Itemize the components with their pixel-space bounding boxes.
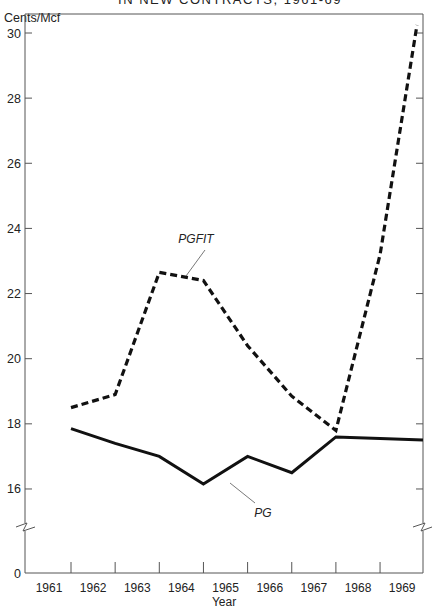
chart-title: IN NEW CONTRACTS, 1961-69 xyxy=(118,0,342,7)
data-lines xyxy=(71,25,423,484)
x-tick-label: 1966 xyxy=(256,581,283,595)
x-tick-label: 1967 xyxy=(301,581,328,595)
pgfit-line xyxy=(71,25,417,431)
x-axis-title: Year xyxy=(212,595,236,609)
y-axis-ticks: 30282624222018160 xyxy=(7,27,423,581)
y-tick-label: 30 xyxy=(7,27,21,41)
x-tick-label: 1964 xyxy=(168,581,195,595)
y-tick-label: 16 xyxy=(7,482,21,496)
x-tick-label: 1969 xyxy=(389,581,416,595)
y-axis-unit-label: Cents/Mcf xyxy=(4,11,61,25)
x-tick-label: 1965 xyxy=(212,581,239,595)
x-tick-label: 1968 xyxy=(345,581,372,595)
y-tick-label: 18 xyxy=(7,417,21,431)
y-tick-label: 28 xyxy=(7,92,21,106)
pgfit-leader-line xyxy=(186,250,205,276)
right-axis-break-icon xyxy=(413,523,432,531)
y-tick-label: 24 xyxy=(7,222,21,236)
left-axis-break-icon xyxy=(16,523,35,531)
pg-leader-line xyxy=(230,483,255,503)
pgfit-series-label: PGFIT xyxy=(178,232,215,246)
frame-sides xyxy=(25,14,423,573)
x-tick-label: 1961 xyxy=(36,581,63,595)
y-tick-label: 20 xyxy=(7,352,21,366)
x-tick-label: 1963 xyxy=(124,581,151,595)
chart: IN NEW CONTRACTS, 1961-69 Cents/Mcf 3028… xyxy=(0,0,435,609)
pg-series-label: PG xyxy=(254,506,271,520)
y-tick-label: 22 xyxy=(7,287,21,301)
x-axis-ticks: 196119621963196419651966196719681969 xyxy=(36,562,416,595)
y-tick-label: 26 xyxy=(7,157,21,171)
y-tick-label: 0 xyxy=(14,567,21,581)
x-tick-label: 1962 xyxy=(80,581,107,595)
pg-line xyxy=(71,429,423,484)
